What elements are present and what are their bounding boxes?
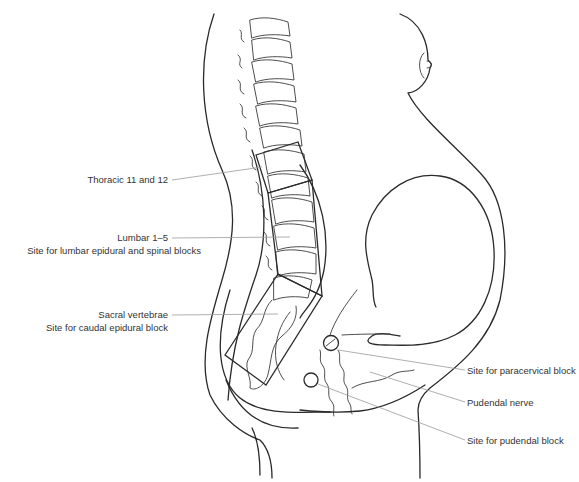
label-sacral: Sacral vertebrae bbox=[40, 308, 168, 321]
perineum bbox=[300, 385, 425, 412]
leader-sacral bbox=[172, 314, 278, 315]
leader-paracervical bbox=[338, 350, 465, 370]
leader-lumbar bbox=[172, 237, 290, 238]
label-thoracic: Thoracic 11 and 12 bbox=[40, 173, 168, 186]
uterine-inner-wall bbox=[330, 290, 357, 335]
areola bbox=[420, 53, 425, 78]
uterine-fold bbox=[342, 334, 390, 335]
vaginal-wall-posterior bbox=[320, 350, 334, 416]
label-pudendal-nerve: Pudendal nerve bbox=[467, 396, 534, 409]
ischial-spine bbox=[304, 373, 318, 387]
sacral-canal bbox=[275, 312, 290, 380]
cervix-mark bbox=[326, 339, 335, 346]
label-lumbar: Lumbar 1–5 bbox=[0, 231, 168, 244]
leader-pudendal-nerve bbox=[370, 372, 465, 402]
label-paracervical: Site for paracervical block bbox=[467, 364, 576, 377]
label-lumbar-site: Site for lumbar epidural and spinal bloc… bbox=[0, 244, 201, 257]
leader-thoracic bbox=[172, 167, 262, 180]
cervix bbox=[324, 336, 339, 351]
vaginal-wall-anterior bbox=[338, 350, 352, 414]
labial-fold bbox=[352, 370, 414, 388]
gluteal-fold bbox=[226, 380, 298, 428]
label-pudendal-block: Site for pudendal block bbox=[467, 434, 564, 447]
label-sacral-site: Site for caudal epidural block bbox=[0, 321, 168, 334]
thigh-line bbox=[252, 428, 260, 475]
uterus bbox=[366, 175, 495, 345]
